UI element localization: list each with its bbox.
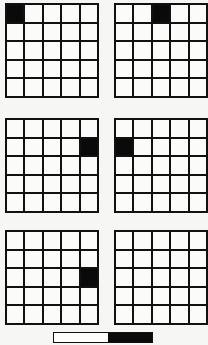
grid-cell-empty[interactable] bbox=[25, 120, 41, 137]
grid-cell-empty[interactable] bbox=[153, 194, 169, 211]
grid-cell-empty[interactable] bbox=[171, 306, 187, 323]
grid-cell-empty[interactable] bbox=[62, 5, 78, 22]
board-middle-right[interactable] bbox=[114, 118, 208, 213]
grid-cell-empty[interactable] bbox=[81, 5, 97, 22]
grid-cell-empty[interactable] bbox=[25, 61, 41, 78]
grid-cell-empty[interactable] bbox=[134, 120, 150, 137]
grid-cell-empty[interactable] bbox=[7, 232, 23, 249]
grid-cell-empty[interactable] bbox=[25, 79, 41, 96]
grid-cell-empty[interactable] bbox=[171, 61, 187, 78]
grid-cell-empty[interactable] bbox=[153, 24, 169, 41]
grid-cell-empty[interactable] bbox=[116, 288, 132, 305]
grid-cell-empty[interactable] bbox=[116, 61, 132, 78]
grid-cell-empty[interactable] bbox=[153, 120, 169, 137]
grid-cell-empty[interactable] bbox=[81, 306, 97, 323]
grid-cell-empty[interactable] bbox=[171, 194, 187, 211]
grid-cell-empty[interactable] bbox=[25, 306, 41, 323]
board-middle-left[interactable] bbox=[5, 118, 99, 213]
grid-cell-empty[interactable] bbox=[81, 232, 97, 249]
grid-cell-empty[interactable] bbox=[62, 176, 78, 193]
grid-cell-empty[interactable] bbox=[153, 42, 169, 59]
grid-cell-empty[interactable] bbox=[190, 157, 206, 174]
grid-cell-empty[interactable] bbox=[81, 24, 97, 41]
grid-cell-empty[interactable] bbox=[153, 269, 169, 286]
grid-cell-empty[interactable] bbox=[62, 232, 78, 249]
grid-cell-empty[interactable] bbox=[44, 232, 60, 249]
grid-cell-empty[interactable] bbox=[134, 139, 150, 156]
grid-cell-empty[interactable] bbox=[81, 120, 97, 137]
grid-cell-empty[interactable] bbox=[62, 269, 78, 286]
grid-cell-empty[interactable] bbox=[44, 5, 60, 22]
grid-cell-empty[interactable] bbox=[44, 139, 60, 156]
grid-cell-empty[interactable] bbox=[190, 306, 206, 323]
grid-cell-empty[interactable] bbox=[190, 61, 206, 78]
grid-cell-empty[interactable] bbox=[7, 61, 23, 78]
grid-cell-empty[interactable] bbox=[7, 24, 23, 41]
grid-cell-empty[interactable] bbox=[134, 79, 150, 96]
grid-cell-empty[interactable] bbox=[134, 24, 150, 41]
grid-cell-empty[interactable] bbox=[7, 176, 23, 193]
grid-cell-empty[interactable] bbox=[62, 61, 78, 78]
grid-cell-empty[interactable] bbox=[116, 176, 132, 193]
grid-cell-empty[interactable] bbox=[171, 5, 187, 22]
grid-cell-empty[interactable] bbox=[171, 251, 187, 268]
grid-cell-empty[interactable] bbox=[25, 194, 41, 211]
grid-cell-empty[interactable] bbox=[153, 176, 169, 193]
grid-cell-empty[interactable] bbox=[44, 79, 60, 96]
grid-cell-empty[interactable] bbox=[7, 79, 23, 96]
grid-cell-empty[interactable] bbox=[190, 24, 206, 41]
grid-cell-empty[interactable] bbox=[25, 5, 41, 22]
grid-cell-empty[interactable] bbox=[171, 232, 187, 249]
grid-cell-empty[interactable] bbox=[7, 251, 23, 268]
grid-cell-empty[interactable] bbox=[62, 42, 78, 59]
grid-cell-empty[interactable] bbox=[171, 157, 187, 174]
grid-cell-empty[interactable] bbox=[190, 42, 206, 59]
grid-cell-empty[interactable] bbox=[153, 61, 169, 78]
grid-cell-empty[interactable] bbox=[134, 288, 150, 305]
grid-cell-empty[interactable] bbox=[171, 79, 187, 96]
grid-cell-empty[interactable] bbox=[134, 251, 150, 268]
grid-cell-empty[interactable] bbox=[190, 232, 206, 249]
grid-cell-empty[interactable] bbox=[171, 176, 187, 193]
grid-cell-empty[interactable] bbox=[190, 251, 206, 268]
grid-cell-empty[interactable] bbox=[62, 139, 78, 156]
grid-cell-empty[interactable] bbox=[81, 251, 97, 268]
grid-cell-empty[interactable] bbox=[25, 42, 41, 59]
grid-cell-empty[interactable] bbox=[62, 24, 78, 41]
grid-cell-empty[interactable] bbox=[190, 79, 206, 96]
grid-cell-empty[interactable] bbox=[171, 288, 187, 305]
grid-cell-empty[interactable] bbox=[81, 79, 97, 96]
grid-cell-empty[interactable] bbox=[62, 194, 78, 211]
board-bottom-left[interactable] bbox=[5, 230, 99, 325]
grid-cell-empty[interactable] bbox=[134, 306, 150, 323]
board-bottom-right[interactable] bbox=[114, 230, 208, 325]
grid-cell-empty[interactable] bbox=[134, 61, 150, 78]
grid-cell-empty[interactable] bbox=[81, 176, 97, 193]
grid-cell-empty[interactable] bbox=[171, 269, 187, 286]
grid-cell-empty[interactable] bbox=[116, 79, 132, 96]
grid-cell-empty[interactable] bbox=[153, 306, 169, 323]
grid-cell-empty[interactable] bbox=[25, 157, 41, 174]
grid-cell-empty[interactable] bbox=[153, 139, 169, 156]
grid-cell-empty[interactable] bbox=[116, 157, 132, 174]
grid-cell-empty[interactable] bbox=[134, 269, 150, 286]
grid-cell-filled[interactable] bbox=[116, 139, 132, 156]
grid-cell-empty[interactable] bbox=[44, 24, 60, 41]
grid-cell-empty[interactable] bbox=[134, 232, 150, 249]
grid-cell-empty[interactable] bbox=[44, 251, 60, 268]
grid-cell-empty[interactable] bbox=[190, 139, 206, 156]
grid-cell-empty[interactable] bbox=[116, 194, 132, 211]
grid-cell-empty[interactable] bbox=[81, 61, 97, 78]
grid-cell-empty[interactable] bbox=[153, 288, 169, 305]
grid-cell-empty[interactable] bbox=[116, 232, 132, 249]
grid-cell-empty[interactable] bbox=[116, 306, 132, 323]
grid-cell-empty[interactable] bbox=[62, 251, 78, 268]
grid-cell-empty[interactable] bbox=[25, 232, 41, 249]
grid-cell-empty[interactable] bbox=[190, 176, 206, 193]
grid-cell-empty[interactable] bbox=[25, 269, 41, 286]
grid-cell-empty[interactable] bbox=[190, 120, 206, 137]
grid-cell-empty[interactable] bbox=[25, 24, 41, 41]
grid-cell-empty[interactable] bbox=[7, 288, 23, 305]
grid-cell-empty[interactable] bbox=[190, 269, 206, 286]
grid-cell-empty[interactable] bbox=[62, 288, 78, 305]
